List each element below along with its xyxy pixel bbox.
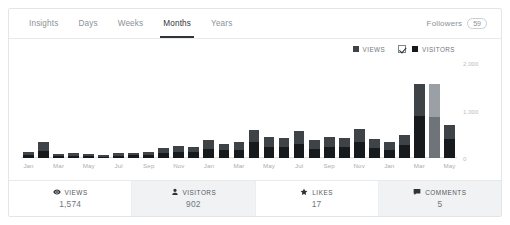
bar-visitors — [68, 156, 79, 158]
x-axis-slot: Nov — [352, 162, 367, 176]
legend-item-visitors[interactable]: VISITORS — [398, 45, 455, 53]
bar-column[interactable] — [141, 63, 156, 158]
x-axis-slot: Mar — [231, 162, 246, 176]
x-axis-slot: Mar — [51, 162, 66, 176]
stat-likes-head: LIKES — [300, 188, 333, 196]
x-axis-tick: Nov — [354, 162, 365, 176]
bar-column[interactable] — [262, 63, 277, 158]
tab-bar: Insights Days Weeks Months Years Followe… — [9, 9, 501, 39]
bar-column[interactable] — [201, 63, 216, 158]
bar-column[interactable] — [337, 63, 352, 158]
bar-column[interactable] — [442, 63, 457, 158]
stat-visitors-head: VISITORS — [171, 188, 217, 196]
bar-visitors — [128, 155, 139, 158]
bar-visitors — [219, 150, 230, 158]
bar-column[interactable] — [382, 63, 397, 158]
tab-days[interactable]: Days — [68, 9, 107, 38]
tab-months[interactable]: Months — [153, 9, 201, 38]
stat-views[interactable]: VIEWS 1,574 — [9, 181, 132, 216]
tab-days-label: Days — [78, 19, 97, 28]
bar-column[interactable] — [126, 63, 141, 158]
stat-likes[interactable]: LIKES 17 — [256, 181, 379, 216]
bar-visitors — [188, 152, 199, 158]
tab-years-label: Years — [211, 19, 232, 28]
bar-visitors — [294, 144, 305, 158]
legend-checkbox-visitors[interactable] — [398, 45, 406, 53]
x-axis-slot: Jan — [21, 162, 36, 176]
y-axis-tick: 0 — [463, 155, 466, 162]
tab-weeks-label: Weeks — [118, 19, 144, 28]
bar-visitors — [113, 156, 124, 158]
x-axis-tick: Mar — [233, 162, 244, 176]
chart-plot: 01,0002,000 — [21, 63, 457, 158]
bar-column[interactable] — [156, 63, 171, 158]
bar-visitors — [264, 147, 275, 158]
bar-column[interactable] — [51, 63, 66, 158]
bar-column[interactable] — [171, 63, 186, 158]
x-axis-slot: Nov — [171, 162, 186, 176]
x-axis-slot: May — [262, 162, 277, 176]
bar-column[interactable] — [66, 63, 81, 158]
bar-visitors — [38, 151, 49, 158]
x-axis-labels: JanMarMayJulSepNovJanMarMayJulSepNovJanM… — [21, 162, 457, 176]
bar-column[interactable] — [352, 63, 367, 158]
bar-column[interactable] — [397, 63, 412, 158]
chart-legend: VIEWS VISITORS — [353, 45, 455, 53]
bar-column[interactable] — [216, 63, 231, 158]
followers-indicator[interactable]: Followers 59 — [427, 18, 491, 30]
x-axis-tick: Jul — [115, 162, 123, 176]
followers-label: Followers — [427, 19, 463, 28]
bar-column[interactable] — [412, 63, 427, 158]
followers-count-badge: 59 — [467, 18, 487, 30]
bar-visitors — [354, 142, 365, 158]
bar-visitors — [249, 142, 260, 158]
bar-visitors — [158, 153, 169, 158]
insights-card: Insights Days Weeks Months Years Followe… — [8, 8, 502, 217]
x-axis-slot — [156, 162, 171, 176]
bar-column[interactable] — [322, 63, 337, 158]
x-axis-slot: May — [442, 162, 457, 176]
tab-years[interactable]: Years — [201, 9, 242, 38]
x-axis-slot — [337, 162, 352, 176]
x-axis-slot: Jul — [111, 162, 126, 176]
x-axis-slot — [427, 162, 442, 176]
x-axis-tick: Nov — [173, 162, 184, 176]
x-axis-slot — [126, 162, 141, 176]
x-axis-slot: Sep — [322, 162, 337, 176]
stats-bar: VIEWS 1,574 VISITORS 902 LIK — [9, 180, 501, 216]
bar-column[interactable] — [427, 63, 442, 158]
y-axis-ticks: 01,0002,000 — [459, 63, 497, 158]
stat-visitors[interactable]: VISITORS 902 — [132, 181, 255, 216]
bar-column[interactable] — [96, 63, 111, 158]
bar-column[interactable] — [21, 63, 36, 158]
bar-column[interactable] — [367, 63, 382, 158]
bar-visitors — [98, 157, 109, 158]
bar-column[interactable] — [231, 63, 246, 158]
bar-column[interactable] — [277, 63, 292, 158]
x-axis-slot — [216, 162, 231, 176]
x-axis-tick: May — [263, 162, 275, 176]
tab-weeks[interactable]: Weeks — [108, 9, 154, 38]
bar-column[interactable] — [186, 63, 201, 158]
x-axis-slot — [96, 162, 111, 176]
stat-views-label: VIEWS — [65, 189, 88, 196]
stat-comments[interactable]: COMMENTS 5 — [379, 181, 501, 216]
bar-column[interactable] — [111, 63, 126, 158]
legend-item-views[interactable]: VIEWS — [353, 46, 386, 53]
stat-comments-value: 5 — [437, 199, 442, 209]
x-axis-tick: Mar — [53, 162, 64, 176]
bar-column[interactable] — [81, 63, 96, 158]
eye-icon — [53, 188, 61, 196]
tab-insights[interactable]: Insights — [19, 9, 68, 38]
bar-column[interactable] — [36, 63, 51, 158]
x-axis-slot — [246, 162, 261, 176]
bar-column[interactable] — [307, 63, 322, 158]
bar-column[interactable] — [292, 63, 307, 158]
bar-visitors — [234, 150, 245, 158]
x-axis-slot — [277, 162, 292, 176]
stat-visitors-value: 902 — [186, 199, 201, 209]
bar-column[interactable] — [246, 63, 261, 158]
stat-comments-label: COMMENTS — [425, 189, 466, 196]
x-axis-slot — [36, 162, 51, 176]
insights-panel-root: Insights Days Weeks Months Years Followe… — [0, 0, 510, 225]
